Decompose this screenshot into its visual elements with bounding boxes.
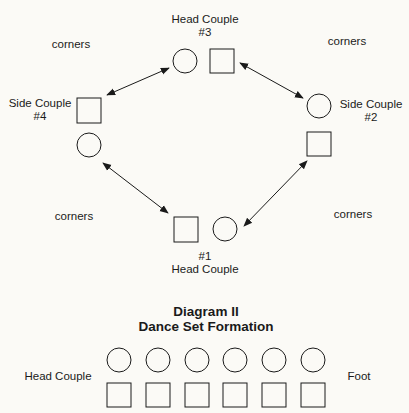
line-lady-3-circle-icon (185, 348, 209, 372)
couple-1-number: #1 (171, 250, 238, 263)
couple-3-gent-square-icon (210, 49, 234, 73)
corner-arrow-bottom-right-icon (244, 161, 307, 226)
couple-1-role: Head Couple (171, 263, 238, 276)
line-gent-6-square-icon (301, 383, 325, 407)
couple-1-shapes (174, 217, 237, 242)
line-lady-2-circle-icon (146, 348, 170, 372)
couple-2-gent-square-icon (307, 132, 331, 156)
diagram-ii-title: Diagram II (173, 304, 238, 320)
line-gent-2-square-icon (146, 383, 170, 407)
couple-4-role: Side Couple (9, 97, 72, 110)
couple-3-role: Head Couple (171, 13, 238, 26)
square-set-diagram (0, 0, 409, 413)
couple-3-shapes (173, 49, 234, 73)
couple-3-lady-circle-icon (173, 49, 197, 73)
couple-3-number: #3 (171, 26, 238, 39)
corners-label-top-right: corners (328, 35, 366, 48)
line-lady-4-circle-icon (223, 348, 247, 372)
line-gent-5-square-icon (262, 383, 286, 407)
line-lady-6-circle-icon (301, 348, 325, 372)
corners-label-top-left: corners (52, 38, 90, 51)
corner-arrow-top-right-icon (240, 63, 303, 98)
line-formation-shapes (107, 348, 325, 407)
corners-label-bottom-right: corners (334, 208, 372, 221)
couple-4-lady-circle-icon (77, 133, 101, 157)
diagram-ii-subtitle: Dance Set Formation (138, 319, 273, 335)
line-head-couple-label: Head Couple (24, 370, 91, 383)
couple-4-label: Side Couple #4 (9, 97, 72, 123)
couple-1-label: #1 Head Couple (171, 250, 238, 276)
couple-2-shapes (307, 94, 331, 156)
line-lady-1-circle-icon (107, 348, 131, 372)
couple-3-label: Head Couple #3 (171, 13, 238, 39)
line-gent-3-square-icon (185, 383, 209, 407)
couple-2-role: Side Couple (340, 98, 403, 111)
couple-2-number: #2 (340, 111, 403, 124)
couple-4-number: #4 (9, 110, 72, 123)
line-lady-5-circle-icon (262, 348, 286, 372)
couple-4-shapes (77, 98, 101, 157)
line-gent-1-square-icon (107, 383, 131, 407)
couple-1-gent-square-icon (174, 217, 198, 242)
couple-4-gent-square-icon (77, 98, 101, 123)
corners-label-bottom-left: corners (55, 210, 93, 223)
line-foot-label: Foot (347, 370, 370, 383)
couple-2-label: Side Couple #2 (340, 98, 403, 124)
line-gent-4-square-icon (223, 383, 247, 407)
couple-1-lady-circle-icon (213, 217, 237, 241)
corner-arrow-top-left-icon (107, 68, 169, 95)
couple-2-lady-circle-icon (307, 94, 331, 118)
corner-arrow-bottom-left-icon (103, 163, 168, 213)
